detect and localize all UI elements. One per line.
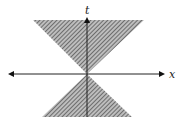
light-cone-diagram: t x [0,0,182,126]
future-light-cone [33,20,144,74]
x-axis-left-arrow-icon [8,71,14,77]
x-axis-right-arrow-icon [159,71,165,77]
t-axis-label: t [85,4,90,17]
x-axis-label: x [169,68,176,81]
